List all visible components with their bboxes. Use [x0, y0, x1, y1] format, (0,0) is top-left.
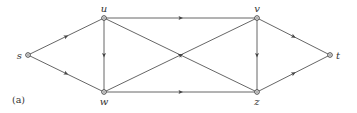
- arrowhead-icon: [291, 71, 297, 77]
- edge-v-z: [255, 18, 259, 92]
- edge-w-z: [104, 90, 257, 94]
- node-label: v: [254, 3, 260, 14]
- edge-z-t: [257, 55, 330, 92]
- edge-s-w: [28, 55, 104, 92]
- node-v: v: [254, 3, 260, 20]
- node-label: s: [17, 50, 22, 61]
- node-center-dot: [103, 17, 105, 19]
- node-label: w: [100, 96, 109, 107]
- directed-graph-diagram: suwvzt (a): [0, 0, 357, 113]
- node-center-dot: [256, 17, 258, 19]
- node-label: u: [101, 3, 107, 14]
- node-center-dot: [103, 91, 105, 93]
- node-center-dot: [27, 54, 29, 56]
- node-center-dot: [256, 91, 258, 93]
- node-s: s: [17, 50, 30, 61]
- edges-layer: [28, 16, 330, 94]
- node-label: t: [336, 50, 341, 61]
- edge-s-u: [28, 18, 104, 55]
- edge-u-w: [102, 18, 106, 92]
- edge-v-t: [257, 18, 330, 55]
- nodes-layer: suwvzt: [17, 3, 341, 107]
- arrowhead-icon: [63, 34, 69, 40]
- node-center-dot: [329, 54, 331, 56]
- node-t: t: [328, 50, 341, 61]
- node-u: u: [101, 3, 107, 20]
- node-z: z: [253, 90, 260, 107]
- edge-u-v: [104, 16, 257, 20]
- figure-caption: (a): [12, 94, 25, 105]
- arrowhead-icon: [291, 34, 297, 40]
- arrowhead-icon: [63, 71, 69, 77]
- node-label: z: [253, 96, 260, 107]
